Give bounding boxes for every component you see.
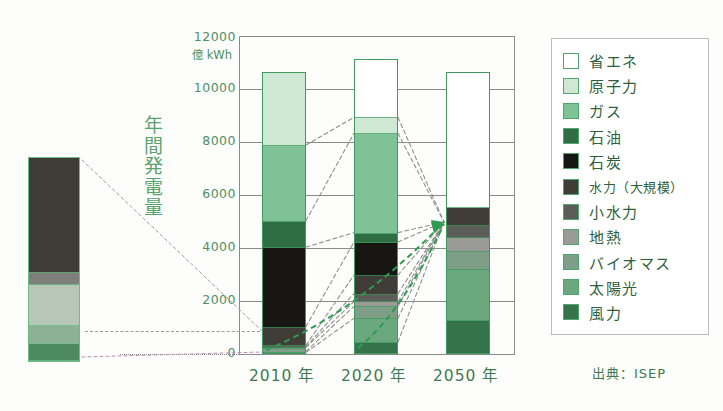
legend-item-label: 石油 [589, 126, 622, 147]
legend-item[interactable]: 石炭 [563, 149, 698, 174]
bar-segment[interactable] [447, 321, 489, 354]
bar-segment[interactable] [355, 234, 397, 243]
legend-item[interactable]: ガス [563, 98, 698, 123]
bar-segment[interactable] [447, 208, 489, 227]
x-label-2020: 2020 年 [341, 363, 407, 385]
bar-segment[interactable] [263, 248, 305, 328]
legend-item[interactable]: 地熱 [563, 224, 698, 249]
y-tick-6000: 6000 [178, 186, 236, 201]
legend-swatch-icon [563, 179, 579, 195]
bar-segment[interactable] [447, 73, 489, 208]
legend: 省エネ原子力ガス石油石炭水力（大規模）小水力地熱バイオマス太陽光風力 [551, 38, 709, 335]
bar-segment[interactable] [355, 307, 397, 319]
bar-segment[interactable] [447, 238, 489, 251]
legend-item-label: ガス [589, 100, 622, 121]
legend-swatch-icon [563, 53, 579, 69]
inset-segment [29, 285, 79, 327]
bar-2020[interactable] [354, 59, 398, 354]
chart-root: 億 kWh 12000 10000 8000 6000 4000 2000 0 … [0, 0, 723, 411]
legend-swatch-icon [563, 279, 579, 295]
legend-item[interactable]: バイオマス [563, 250, 698, 275]
legend-item[interactable]: 太陽光 [563, 275, 698, 300]
y-axis-unit: 億 kWh [192, 46, 232, 62]
y-tick-4000: 4000 [178, 239, 236, 254]
legend-item[interactable]: 省エネ [563, 48, 698, 73]
y-tick-12000: 12000 [178, 29, 236, 44]
legend-item[interactable]: 風力 [563, 300, 698, 325]
bar-segment[interactable] [263, 328, 305, 347]
x-axis-spine [239, 354, 515, 355]
inset-segment [29, 273, 79, 285]
legend-swatch-icon [563, 128, 579, 144]
bar-segment[interactable] [355, 276, 397, 295]
legend-item[interactable]: 水力（大規模） [563, 174, 698, 199]
legend-item[interactable]: 石油 [563, 124, 698, 149]
legend-item-label: 水力（大規模） [589, 177, 684, 196]
legend-swatch-icon [563, 304, 579, 320]
legend-swatch-icon [563, 153, 579, 169]
y-axis-title-char-4: 電 [140, 177, 166, 198]
y-axis-spine [239, 36, 240, 355]
bar-segment[interactable] [355, 243, 397, 276]
legend-item-label: 地熱 [589, 226, 622, 247]
y-axis-title-char-1: 年 [140, 115, 166, 136]
gridline-12000 [239, 36, 515, 37]
inset-segment [29, 326, 79, 343]
y-axis-title-char-3: 発 [140, 156, 166, 177]
legend-item[interactable]: 原子力 [563, 73, 698, 98]
legend-item-label: 風力 [589, 302, 622, 323]
legend-item-label: 太陽光 [589, 277, 639, 298]
legend-swatch-icon [563, 103, 579, 119]
legend-item-label: 石炭 [589, 151, 622, 172]
source-caption: 出典：ISEP [592, 363, 666, 382]
legend-item-label: バイオマス [589, 252, 672, 273]
legend-swatch-icon [563, 78, 579, 94]
bar-segment[interactable] [447, 270, 489, 320]
x-label-2050: 2050 年 [433, 363, 499, 385]
legend-item-label: 省エネ [589, 50, 639, 71]
bar-segment[interactable] [355, 134, 397, 233]
inset-reference-dashline [85, 331, 260, 332]
inset-segment [29, 344, 79, 361]
bar-segment[interactable] [263, 73, 305, 146]
legend-swatch-icon [563, 204, 579, 220]
y-tick-0: 0 [178, 345, 236, 360]
inset-reference-bar [28, 157, 80, 362]
plot-right-spine [514, 36, 515, 355]
bar-segment[interactable] [355, 118, 397, 134]
inset-segment [29, 158, 79, 273]
bar-segment[interactable] [355, 295, 397, 303]
y-axis-title-char-2: 間 [140, 136, 166, 157]
bar-segment[interactable] [355, 319, 397, 343]
bar-2010[interactable] [262, 72, 306, 354]
y-tick-8000: 8000 [178, 133, 236, 148]
bar-segment[interactable] [263, 222, 305, 249]
x-label-2010: 2010 年 [249, 363, 315, 385]
bar-segment[interactable] [447, 226, 489, 238]
legend-swatch-icon [563, 229, 579, 245]
bar-2050[interactable] [446, 72, 490, 354]
y-tick-2000: 2000 [178, 292, 236, 307]
bar-segment[interactable] [355, 343, 397, 354]
bar-segment[interactable] [263, 146, 305, 222]
legend-swatch-icon [563, 254, 579, 270]
y-axis-title-char-5: 量 [140, 197, 166, 218]
y-axis-title: 年 間 発 電 量 [140, 115, 166, 218]
legend-item[interactable]: 小水力 [563, 199, 698, 224]
bar-segment[interactable] [355, 60, 397, 118]
legend-item-label: 原子力 [589, 75, 639, 96]
bar-segment[interactable] [447, 252, 489, 271]
legend-item-label: 小水力 [589, 201, 639, 222]
y-tick-10000: 10000 [178, 80, 236, 95]
